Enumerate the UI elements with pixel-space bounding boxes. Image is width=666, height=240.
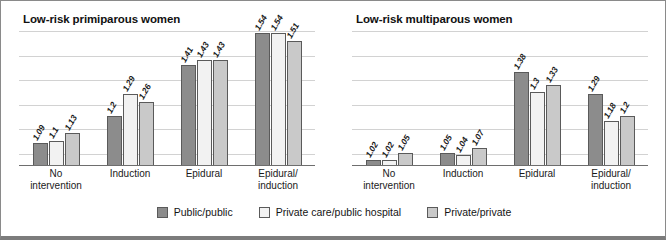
plot-area-primiparous: 1.091.11.131.21.291.261.411.431.431.541.… [19,31,315,166]
bar[interactable]: 1.29 [123,94,138,165]
bar-value-label: 1.05 [437,133,454,152]
bar[interactable]: 1.2 [620,116,635,165]
bar-slot: 1.43 [197,31,212,165]
panel-title-multiparous: Low-risk multiparous women [356,13,513,25]
bar-group: 1.381.31.33 [500,31,574,165]
bar-group: 1.21.291.26 [93,31,167,165]
category-label: Nointervention [19,168,93,191]
legend-swatch-icon [157,207,168,218]
bar-value-label: 1.29 [585,75,602,94]
bar-value-label: 1.02 [363,141,380,160]
bar-slot: 1.26 [139,31,154,165]
bar-group: 1.411.431.43 [167,31,241,165]
bar-value-label: 1.54 [252,14,269,33]
bar-value-label: 1.51 [284,21,301,40]
bar-value-label: 1.07 [469,128,486,147]
category-label: Induction [93,168,167,191]
bar-slot: 1.09 [33,31,48,165]
legend-swatch-icon [259,207,270,218]
bar[interactable]: 1.2 [107,116,122,165]
bar-value-label: 1.2 [104,101,118,116]
figure-container: Low-risk primiparous women 1.091.11.131.… [0,0,666,240]
category-labels-multiparous: NointerventionInductionEpiduralEpidural/… [352,168,648,191]
bar-slot: 1.05 [440,31,455,165]
bar-slot: 1.41 [181,31,196,165]
bar-slot: 1.13 [65,31,80,165]
category-label: Nointervention [352,168,426,191]
bar[interactable]: 1.43 [213,60,228,165]
bar-value-label: 1.05 [395,133,412,152]
bar[interactable]: 1.07 [472,148,487,165]
bar-value-label: 1.43 [210,41,227,60]
panels-row: Low-risk primiparous women 1.091.11.131.… [1,1,666,197]
bar[interactable]: 1.41 [181,65,196,165]
bar-group: 1.541.541.51 [241,31,315,165]
bar-value-label: 1.18 [601,102,618,121]
bar-value-label: 1.43 [194,41,211,60]
bar[interactable]: 1.29 [588,94,603,165]
bar-slot: 1.02 [366,31,381,165]
bar-slot: 1.2 [620,31,635,165]
bar-slot: 1.43 [213,31,228,165]
bar[interactable]: 1.43 [197,60,212,165]
bar[interactable]: 1.05 [398,153,413,165]
bar-slot: 1.02 [382,31,397,165]
bar-groups-primiparous: 1.091.11.131.21.291.261.411.431.431.541.… [19,31,315,165]
category-label: Epidural [167,168,241,191]
bar-slot: 1.3 [530,31,545,165]
bar-value-label: 1.26 [136,82,153,101]
bar[interactable]: 1.3 [530,92,545,165]
bar-slot: 1.1 [49,31,64,165]
category-label: Epidural/induction [241,168,315,191]
bar[interactable]: 1.09 [33,143,48,165]
bar-slot: 1.54 [255,31,270,165]
category-label: Epidural [500,168,574,191]
bar-value-label: 1.38 [511,53,528,72]
legend-label: Private care/public hospital [276,206,401,218]
bar[interactable]: 1.05 [440,153,455,165]
panel-primiparous: Low-risk primiparous women 1.091.11.131.… [1,1,334,197]
bar-slot: 1.29 [123,31,138,165]
bar[interactable]: 1.54 [255,33,270,165]
bar-slot: 1.07 [472,31,487,165]
chart-legend: Public/publicPrivate care/public hospita… [1,206,666,218]
category-label: Induction [426,168,500,191]
bar-slot: 1.33 [546,31,561,165]
bar-slot: 1.18 [604,31,619,165]
bar[interactable]: 1.18 [604,121,619,165]
bar-value-label: 1.41 [178,45,195,64]
bar[interactable]: 1.04 [456,155,471,165]
panel-multiparous: Low-risk multiparous women 1.021.021.051… [334,1,666,197]
plot-area-multiparous: 1.021.021.051.051.041.071.381.31.331.291… [352,31,648,166]
x-axis-line [19,165,315,166]
bar-slot: 1.04 [456,31,471,165]
bar-value-label: 1.33 [543,65,560,84]
legend-label: Private/private [444,206,511,218]
bar-value-label: 1.13 [62,114,79,133]
bar[interactable]: 1.33 [546,85,561,165]
legend-label: Public/public [174,206,233,218]
legend-swatch-icon [427,207,438,218]
legend-item[interactable]: Private care/public hospital [259,206,401,218]
category-labels-primiparous: NointerventionInductionEpiduralEpidural/… [19,168,315,191]
bar-value-label: 1.54 [268,14,285,33]
bar[interactable]: 1.51 [287,41,302,165]
bar-slot: 1.2 [107,31,122,165]
bar[interactable]: 1.1 [49,141,64,165]
bar-group: 1.291.181.2 [574,31,648,165]
panel-title-primiparous: Low-risk primiparous women [23,13,180,25]
bar[interactable]: 1.13 [65,133,80,165]
bar[interactable]: 1.38 [514,72,529,165]
bar-slot: 1.29 [588,31,603,165]
bar-slot: 1.54 [271,31,286,165]
legend-item[interactable]: Public/public [157,206,233,218]
bar-value-label: 1.04 [453,136,470,155]
bar[interactable]: 1.26 [139,102,154,165]
bar-slot: 1.05 [398,31,413,165]
bar[interactable]: 1.54 [271,33,286,165]
category-label: Epidural/induction [574,168,648,191]
bar-value-label: 1.02 [379,141,396,160]
legend-item[interactable]: Private/private [427,206,511,218]
bar-value-label: 1.09 [30,123,47,142]
bar-group: 1.051.041.07 [426,31,500,165]
